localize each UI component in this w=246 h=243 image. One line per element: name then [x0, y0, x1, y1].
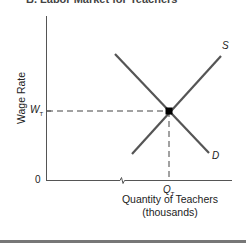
demand-curve	[115, 54, 209, 153]
supply-curve	[132, 56, 221, 154]
x-axis-label-line1: Quantity of Teachers	[95, 193, 245, 206]
x-axis-label: Quantity of Teachers (thousands)	[95, 193, 245, 219]
wage-equilibrium-label: WT	[30, 104, 43, 117]
demand-label: D	[212, 150, 219, 161]
supply-label: S	[222, 40, 229, 51]
y-axis-label: Wage Rate	[15, 72, 27, 124]
x-axis-label-line2: (thousands)	[95, 206, 245, 219]
origin-label: 0	[35, 174, 41, 185]
equilibrium-point	[166, 108, 173, 115]
